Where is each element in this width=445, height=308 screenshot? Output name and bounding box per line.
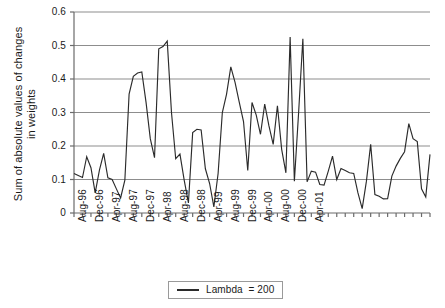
y-axis-title-line1: Sum of absolute values of changes [12, 27, 24, 202]
x-tick-label: Apr-98 [163, 191, 173, 222]
y-tick-label: 0.1 [42, 175, 66, 185]
chart-figure: Sum of absolute values of changes in wei… [0, 0, 445, 308]
x-tick-label: Dec-99 [248, 189, 258, 222]
y-tick-label: 0.3 [42, 108, 66, 118]
x-tick-label: Aug-96 [78, 189, 88, 222]
y-tick-label: 0.5 [42, 41, 66, 51]
y-tick-label: 0.6 [42, 7, 66, 17]
x-tick-label: Dec-96 [95, 189, 105, 222]
legend: Lambda = 200 [168, 281, 283, 299]
x-tick-label: Dec-97 [146, 189, 156, 222]
y-tick-label: 0.4 [42, 74, 66, 84]
x-tick-label: Aug-97 [129, 189, 139, 222]
x-tick-label: Dec-00 [298, 189, 308, 222]
legend-line-swatch [177, 289, 199, 291]
x-tick-label: Apr-97 [112, 191, 122, 222]
x-tick-label: Apr-99 [214, 191, 224, 222]
y-axis-title-line2: in weights [25, 27, 38, 202]
legend-label: Lambda = 200 [206, 284, 274, 295]
x-tick-label: Aug-00 [281, 189, 291, 222]
x-tick-label: Aug-99 [231, 189, 241, 222]
y-tick-label: 0.2 [42, 141, 66, 151]
x-tick-label: Aug-98 [180, 189, 190, 222]
x-tick-label: Dec-98 [197, 189, 207, 222]
x-tick-label: Apr-00 [264, 191, 274, 222]
gridlines [74, 12, 430, 180]
y-axis-title-text: Sum of absolute values of changes in wei… [12, 27, 38, 202]
data-series-line [74, 37, 430, 209]
plot-area [0, 0, 445, 308]
x-tick-label: Apr-01 [315, 191, 325, 222]
y-tick-label: 0 [42, 208, 66, 218]
